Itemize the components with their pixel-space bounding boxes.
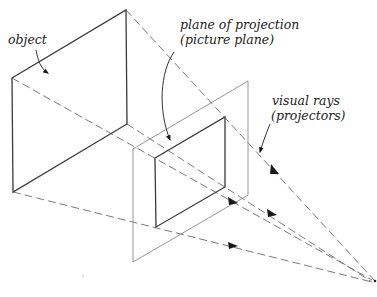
speck (82, 275, 84, 277)
object-pointer-arrow (36, 50, 48, 73)
arrowhead-icon (267, 209, 277, 217)
label-plane-line1: plane of projection (180, 17, 299, 32)
ray-top-right (126, 10, 375, 281)
rays-pointer-arrow (260, 124, 270, 152)
label-object: object (8, 32, 48, 47)
label-rays-line1: visual rays (272, 93, 340, 108)
projected-image (155, 117, 225, 227)
projection-diagram: object plane of projection (picture plan… (0, 0, 377, 297)
label-plane-line2: (picture plane) (180, 32, 274, 47)
visual-rays (12, 10, 375, 282)
ray-arrowheads (228, 164, 279, 249)
arrowhead-icon (270, 164, 279, 174)
label-rays-line2: (projectors) (271, 108, 346, 123)
picture-plane (133, 81, 248, 262)
plane-pointer-arrow (162, 52, 174, 140)
ray-bottom-right (127, 124, 372, 282)
station-point (374, 280, 377, 283)
